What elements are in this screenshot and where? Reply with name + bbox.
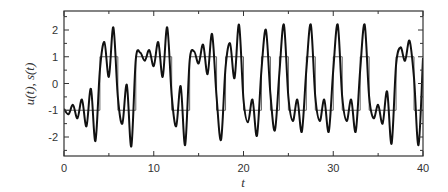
y-tick-label: 2 [52, 24, 58, 36]
x-tick-label: 10 [148, 162, 160, 174]
x-tick-label: 30 [327, 162, 339, 174]
y-axis-label: u(t), s(t) [22, 63, 37, 106]
y-tick-label: 1 [52, 51, 58, 63]
x-tick-label: 20 [237, 162, 249, 174]
chart: 010203040 -2-1012 t u(t), s(t) [0, 0, 448, 192]
x-tick-label: 40 [417, 162, 429, 174]
x-axis-label: t [241, 175, 245, 190]
y-tick-label: -2 [48, 131, 58, 143]
y-tick-label: -1 [48, 104, 58, 116]
y-tick-label: 0 [52, 78, 58, 90]
x-tick-label: 0 [61, 162, 67, 174]
